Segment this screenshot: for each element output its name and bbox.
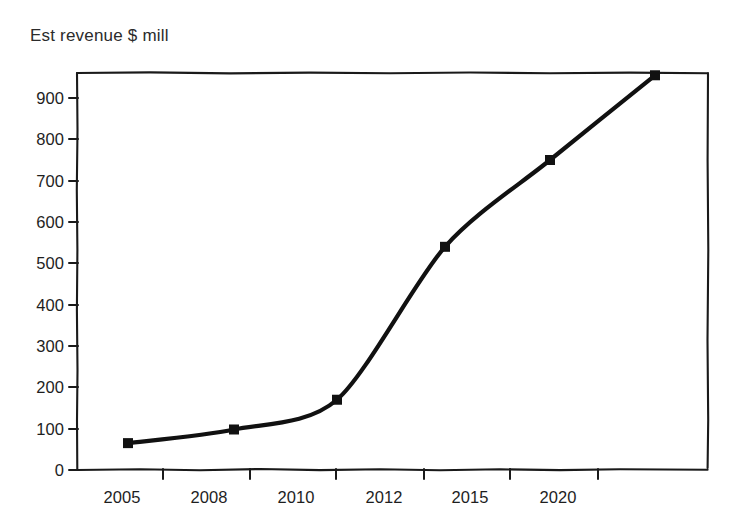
x-tick-label-2010: 2010: [277, 488, 314, 506]
y-axis-tick-labels: 900 800 700 600 500 400 300 200 100 0: [36, 89, 64, 479]
x-tick-label-2008: 2008: [190, 488, 227, 506]
y-tick-label-200: 200: [36, 378, 64, 396]
y-tick-label-900: 900: [36, 89, 64, 107]
data-point-marker-2010: [332, 395, 342, 405]
x-tick-label-2012: 2012: [365, 488, 402, 506]
x-tick-label-2020: 2020: [539, 488, 576, 506]
line-chart: 900 800 700 600 500 400 300 200 100 0 20…: [0, 0, 731, 526]
series-line: [128, 75, 655, 443]
x-axis-line: [77, 469, 707, 470]
data-point-marker-2020: [650, 70, 660, 80]
y-axis-line: [77, 73, 78, 470]
y-tick-label-300: 300: [36, 337, 64, 355]
y-tick-label-400: 400: [36, 296, 64, 314]
data-point-marker-2005: [123, 438, 133, 448]
y-tick-label-0: 0: [55, 461, 64, 479]
x-tick-label-2015: 2015: [451, 488, 488, 506]
y-tick-label-700: 700: [36, 172, 64, 190]
x-tick-label-2005: 2005: [103, 488, 140, 506]
plot-border-right: [708, 73, 709, 468]
y-tick-label-100: 100: [36, 420, 64, 438]
data-point-marker-2015: [545, 155, 555, 165]
y-tick-label-500: 500: [36, 254, 64, 272]
data-point-marker-2008: [229, 424, 239, 434]
x-axis-tick-labels: 2005 2008 2010 2012 2015 2020: [103, 488, 576, 506]
data-point-marker-2012: [440, 242, 450, 252]
plot-border-top: [77, 72, 708, 73]
y-tick-label-600: 600: [36, 213, 64, 231]
data-series-revenue: [123, 70, 660, 448]
chart-screenshot: Est revenue $ mill 90: [0, 0, 731, 526]
y-tick-label-800: 800: [36, 130, 64, 148]
plot-frame: [77, 72, 709, 470]
